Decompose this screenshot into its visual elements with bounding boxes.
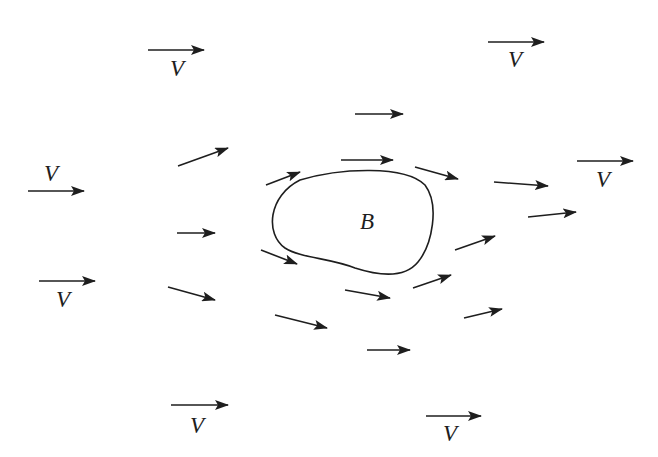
flow-arrow-icon bbox=[178, 148, 228, 166]
velocity-label: V bbox=[170, 57, 184, 80]
flow-arrow-icon bbox=[168, 287, 215, 300]
flow-arrow-icon bbox=[415, 167, 458, 179]
flow-arrow-icon bbox=[494, 182, 548, 186]
flow-arrow-icon bbox=[413, 275, 451, 288]
free-stream-vectors bbox=[28, 42, 633, 416]
velocity-label: V bbox=[190, 414, 204, 437]
velocity-label: V bbox=[596, 168, 610, 191]
flow-arrow-icon bbox=[464, 309, 502, 318]
flow-arrow-icon bbox=[275, 315, 327, 328]
velocity-label: V bbox=[443, 422, 457, 445]
body-label: B bbox=[360, 210, 374, 233]
velocity-label: V bbox=[508, 48, 522, 71]
flow-arrow-icon bbox=[345, 290, 390, 298]
flow-arrow-icon bbox=[455, 236, 495, 250]
velocity-label: V bbox=[44, 162, 58, 185]
body-outline bbox=[272, 170, 433, 274]
flow-diagram bbox=[0, 0, 658, 457]
velocity-label: V bbox=[56, 288, 70, 311]
flow-arrow-icon bbox=[528, 212, 576, 217]
